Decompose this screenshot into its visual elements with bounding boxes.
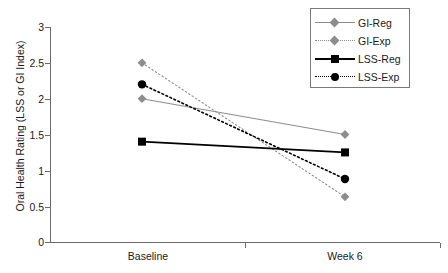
x-tick-label-week6: Week 6 (285, 250, 405, 262)
series-line-gi-reg (142, 99, 345, 135)
x-tick-mark-mid (245, 243, 246, 248)
circle-marker-icon (331, 73, 339, 81)
legend-sample-gi-exp (315, 34, 355, 48)
diamond-marker-icon (330, 18, 340, 28)
circle-marker-icon (138, 80, 146, 88)
legend-entry-lss-exp: LSS-Exp (311, 68, 409, 86)
legend-label-gi-reg: GI-Reg (358, 17, 392, 29)
diamond-marker-icon (138, 58, 147, 67)
legend-label-lss-reg: LSS-Reg (358, 53, 401, 65)
line-chart: 3 2.5 2 1.5 1 0.5 0 Baseline Week 6 Oral… (0, 0, 448, 273)
y-tick-mark-1_5 (45, 135, 50, 136)
x-tick-mark-end (440, 243, 441, 248)
circle-marker-icon (341, 175, 349, 183)
square-marker-icon (341, 148, 349, 156)
legend-label-lss-exp: LSS-Exp (358, 71, 399, 83)
diamond-marker-icon (138, 94, 147, 103)
legend-entry-gi-exp: GI-Exp (311, 32, 409, 50)
y-tick-mark-0 (45, 242, 50, 243)
legend-entry-lss-reg: LSS-Reg (311, 50, 409, 68)
legend-sample-lss-exp (315, 70, 355, 84)
chart-legend: GI-Reg GI-Exp LSS-Reg LSS-Exp (310, 8, 410, 88)
square-marker-icon (138, 138, 146, 146)
diamond-marker-icon (330, 36, 340, 46)
legend-label-gi-exp: GI-Exp (358, 35, 391, 47)
x-tick-label-baseline: Baseline (88, 250, 208, 262)
y-tick-label-0: 0 (0, 237, 44, 247)
y-tick-mark-0_5 (45, 207, 50, 208)
y-tick-mark-2 (45, 99, 50, 100)
legend-sample-gi-reg (315, 16, 355, 30)
y-axis-title: Oral Health Rating (LSS or GI Index) (14, 16, 26, 236)
series-line-lss-reg (142, 142, 345, 153)
diamond-marker-icon (341, 192, 350, 201)
legend-entry-gi-reg: GI-Reg (311, 14, 409, 32)
diamond-marker-icon (341, 130, 350, 139)
y-tick-mark-2_5 (45, 63, 50, 64)
square-marker-icon (331, 55, 339, 63)
y-tick-mark-3 (45, 27, 50, 28)
y-tick-mark-1 (45, 171, 50, 172)
y-axis-line (50, 27, 51, 243)
legend-sample-lss-reg (315, 52, 355, 66)
series-line-lss-exp (142, 84, 345, 179)
